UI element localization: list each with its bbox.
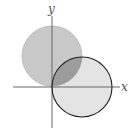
coordinate-diagram: y x bbox=[0, 0, 132, 132]
y-axis-label: y bbox=[47, 2, 55, 16]
diagram-canvas: y x bbox=[0, 0, 132, 132]
x-axis-label: x bbox=[121, 80, 128, 94]
